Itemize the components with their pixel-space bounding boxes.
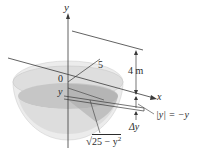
abs-y-arrow-icon (134, 96, 138, 100)
height-label: 4 m (128, 66, 143, 76)
sqrt-body: 25 − y2 (92, 134, 121, 147)
sqrt-label: √25 − y2 (86, 136, 121, 147)
origin-label: 0 (58, 74, 63, 84)
abs-y-label: |y| = −y (156, 110, 189, 120)
height-arrow-up-icon (134, 50, 138, 55)
x-axis-label: x (157, 92, 161, 102)
delta-y-label: Δy (129, 122, 139, 132)
top-plane-line (72, 31, 143, 50)
depth-y-label: y (58, 87, 62, 97)
tank-diagram (0, 0, 201, 154)
sqrt-exponent: 2 (118, 135, 122, 143)
delta-y-arrow-icon (134, 111, 138, 115)
y-axis-label: y (64, 2, 69, 13)
x-axis-arrow-icon (150, 95, 157, 100)
radius-label: 5 (98, 60, 103, 70)
abs-y-leader (138, 104, 154, 114)
y-axis-arrow-icon (66, 13, 70, 19)
